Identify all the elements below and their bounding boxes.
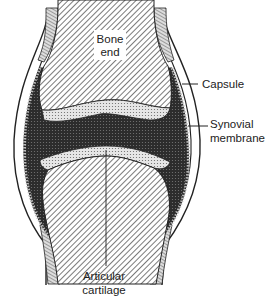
synovial-label-line2: membrane [210, 132, 265, 144]
synovial-label-line1: Synovial [210, 118, 253, 130]
joint-diagram: Bone end Capsule Synovial membrane Artic… [0, 0, 266, 302]
bone-end-label-line2: end [100, 46, 119, 58]
articular-label-line2: cartilage [82, 284, 125, 296]
capsule-label: Capsule [202, 78, 244, 90]
bone-end-label-line1: Bone [97, 33, 124, 45]
articular-label-line1: Articular [83, 270, 125, 282]
